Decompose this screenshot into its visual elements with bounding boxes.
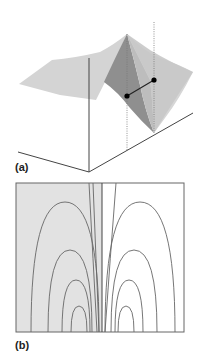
marked-point-right — [151, 77, 156, 82]
contour-arches-right — [105, 202, 175, 332]
contour-arch — [115, 280, 143, 332]
panel-b-contour-map — [16, 183, 184, 332]
surface-left-sheet — [19, 34, 127, 100]
marked-point-left — [124, 93, 129, 98]
contour-arch — [111, 250, 157, 332]
axis-right — [89, 113, 193, 172]
panel-label-a: (a) — [15, 162, 28, 173]
contour-near-vertical-right — [105, 183, 116, 332]
panel-label-b: (b) — [15, 340, 29, 351]
axis-left — [18, 152, 89, 172]
figure-canvas — [0, 0, 208, 360]
contour-arch — [118, 306, 134, 332]
panel-a-surface-plot — [18, 22, 193, 172]
